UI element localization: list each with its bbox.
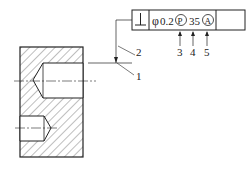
callout-4: 4 bbox=[190, 46, 196, 58]
callout-line-1 bbox=[117, 63, 134, 75]
callout-3: 3 bbox=[177, 46, 183, 58]
tolerance-value: 0.2 bbox=[160, 15, 174, 27]
projected-height: 35 bbox=[189, 15, 201, 27]
leader bbox=[88, 20, 135, 75]
callout-line-2 bbox=[118, 46, 135, 55]
feature-control-frame: φ 0.2 P 35 A bbox=[132, 10, 245, 30]
drawing: φ 0.2 P 35 A 1 2 3 4 5 bbox=[0, 0, 248, 175]
callout-2: 2 bbox=[136, 46, 142, 58]
upper-hole bbox=[33, 63, 83, 98]
part-section bbox=[14, 47, 96, 157]
diameter-symbol: φ bbox=[152, 14, 159, 28]
modifier-p: P bbox=[178, 16, 183, 26]
callout-arrows bbox=[178, 31, 209, 46]
datum-a: A bbox=[205, 16, 212, 26]
lower-hole bbox=[20, 116, 51, 141]
callout-5: 5 bbox=[204, 46, 210, 58]
callout-1: 1 bbox=[136, 70, 142, 82]
